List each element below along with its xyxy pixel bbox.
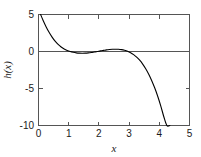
x-tick-label: 2 [96,128,102,139]
y-tick-labels: 5 0 -5 -10 [20,9,35,131]
plot-frame [39,15,190,126]
x-tick-label: 0 [36,128,42,139]
x-axis-title: x [111,142,117,154]
chart-figure: 0 1 2 3 4 5 5 0 -5 -10 x h(x) [0,0,201,157]
plot-canvas: 0 1 2 3 4 5 5 0 -5 -10 x h(x) [0,0,201,157]
y-tick-label: 0 [28,46,34,57]
data-curve-hx [41,15,170,127]
x-tick-label: 3 [126,128,132,139]
x-tick-label: 5 [187,128,193,139]
y-tick-marks [39,15,43,126]
y-tick-marks-right [186,51,190,88]
x-tick-label: 1 [66,128,72,139]
x-tick-marks-top [69,15,160,19]
y-tick-label: -10 [20,120,35,131]
y-tick-label: -5 [25,83,34,94]
x-tick-label: 4 [157,128,163,139]
y-axis-title: h(x) [1,61,14,79]
x-tick-labels: 0 1 2 3 4 5 [36,128,193,139]
y-tick-label: 5 [28,9,34,20]
